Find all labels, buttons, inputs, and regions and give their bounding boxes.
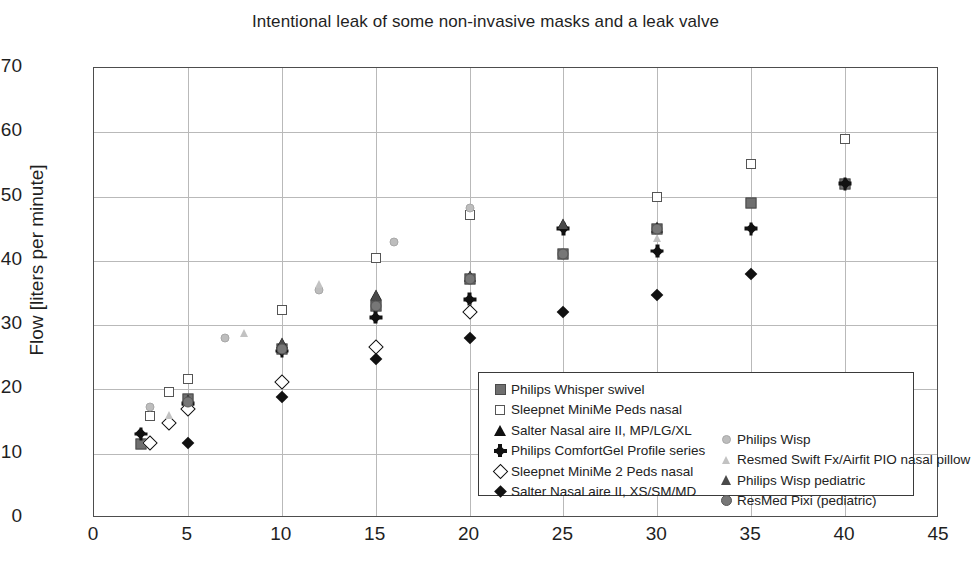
data-point: [371, 253, 381, 263]
legend-item-label: Sleepnet MiniMe 2 Peds nasal: [511, 464, 693, 479]
x-tick-label: 0: [63, 523, 123, 545]
data-point: [558, 219, 568, 229]
legend-column-left: Philips Whisper swivelSleepnet MiniMe Pe…: [489, 379, 715, 502]
triangle-dark-icon: [715, 475, 737, 485]
data-point: [276, 376, 287, 387]
x-tick-label: 10: [251, 523, 311, 545]
y-tick-label: 50: [0, 184, 22, 206]
data-point: [164, 417, 175, 428]
triangle-gray-icon: [715, 456, 737, 464]
data-point: [164, 387, 174, 397]
gridline-vertical: [282, 68, 283, 516]
y-tick-label: 0: [0, 505, 22, 527]
circle-gray-icon: [715, 435, 737, 444]
diamond-filled-icon: [489, 487, 511, 496]
data-point: [653, 234, 661, 242]
data-point: [465, 334, 474, 343]
legend-item-label: Philips Whisper swivel: [511, 382, 645, 397]
data-point: [370, 342, 381, 353]
y-tick-label: 10: [0, 441, 22, 463]
legend-item: Sleepnet MiniMe 2 Peds nasal: [489, 461, 715, 482]
legend-item: Philips Wisp pediatric: [715, 470, 911, 491]
gridline-horizontal: [94, 261, 937, 262]
data-point: [653, 290, 662, 299]
legend-item-label: Sleepnet MiniMe Peds nasal: [511, 402, 682, 417]
data-point: [145, 438, 156, 449]
data-point: [390, 237, 399, 246]
legend-item-label: Philips Wisp pediatric: [737, 473, 865, 488]
data-point: [652, 192, 662, 202]
y-tick-label: 20: [0, 376, 22, 398]
legend-item: Salter Nasal aire II, MP/LG/XL: [489, 420, 715, 441]
data-point: [277, 305, 287, 315]
data-point: [558, 249, 569, 260]
y-tick-label: 70: [0, 55, 22, 77]
legend-item: Philips Whisper swivel: [489, 379, 715, 400]
legend-item: Salter Nasal aire II, XS/SM/MD: [489, 482, 715, 503]
data-point: [840, 134, 850, 144]
triangle-filled-icon: [489, 425, 511, 436]
x-tick-label: 45: [908, 523, 968, 545]
legend-item: Philips ComfortGel Profile series: [489, 441, 715, 462]
data-point: [183, 438, 192, 447]
data-point: [747, 269, 756, 278]
legend-item-label: Philips ComfortGel Profile series: [511, 443, 705, 458]
legend-item-label: Salter Nasal aire II, MP/LG/XL: [511, 423, 692, 438]
legend-item-label: Salter Nasal aire II, XS/SM/MD: [511, 484, 696, 499]
gridline-horizontal: [94, 325, 937, 326]
page-title: Intentional leak of some non-invasive ma…: [0, 12, 971, 32]
data-point: [839, 177, 852, 190]
chart-root: Intentional leak of some non-invasive ma…: [0, 0, 971, 568]
square-open-icon: [489, 405, 511, 415]
legend-item-label: Resmed Swift Fx/Airfit PIO nasal pillow: [737, 452, 970, 467]
data-point: [183, 374, 193, 384]
circle-dark-icon: [715, 495, 737, 506]
data-point: [182, 397, 193, 408]
data-point: [165, 411, 173, 419]
data-point: [240, 329, 248, 337]
x-tick-label: 20: [439, 523, 499, 545]
y-tick-label: 30: [0, 312, 22, 334]
legend-item-label: Philips Wisp: [737, 432, 811, 447]
data-point: [370, 300, 381, 311]
x-tick-label: 30: [626, 523, 686, 545]
square-filled-icon: [489, 384, 511, 395]
data-point: [464, 307, 475, 318]
diamond-open-icon: [489, 466, 511, 477]
x-tick-label: 40: [814, 523, 874, 545]
data-point: [464, 273, 475, 284]
legend-item-label: ResMed Pixi (pediatric): [737, 493, 877, 508]
x-tick-label: 15: [345, 523, 405, 545]
legend-item: Philips Wisp: [715, 429, 911, 450]
gridline-horizontal: [94, 132, 937, 133]
data-point: [465, 204, 474, 213]
data-point: [277, 393, 286, 402]
data-point: [651, 245, 664, 258]
data-point: [369, 311, 382, 324]
legend-item: Sleepnet MiniMe Peds nasal: [489, 400, 715, 421]
y-tick-label: 60: [0, 119, 22, 141]
data-point: [745, 222, 758, 235]
x-tick-label: 25: [532, 523, 592, 545]
data-point: [559, 308, 568, 317]
data-point: [746, 198, 757, 209]
y-axis-label: Flow [liters per minute]: [26, 50, 48, 470]
plus-diamond-icon: [489, 444, 511, 457]
legend: Philips Whisper swivelSleepnet MiniMe Pe…: [478, 372, 914, 496]
legend-item: ResMed Pixi (pediatric): [715, 491, 911, 512]
data-point: [276, 343, 287, 354]
x-tick-label: 35: [720, 523, 780, 545]
data-point: [221, 334, 230, 343]
legend-item: Resmed Swift Fx/Airfit PIO nasal pillow: [715, 450, 911, 471]
data-point: [746, 159, 756, 169]
data-point: [371, 354, 380, 363]
legend-column-right: Philips WispResmed Swift Fx/Airfit PIO n…: [715, 429, 911, 511]
data-point: [146, 402, 155, 411]
y-tick-label: 40: [0, 248, 22, 270]
x-tick-label: 5: [157, 523, 217, 545]
data-point: [652, 223, 663, 234]
data-point: [315, 280, 323, 288]
gridline-horizontal: [94, 197, 937, 198]
data-point: [371, 290, 381, 300]
data-point: [145, 411, 155, 421]
